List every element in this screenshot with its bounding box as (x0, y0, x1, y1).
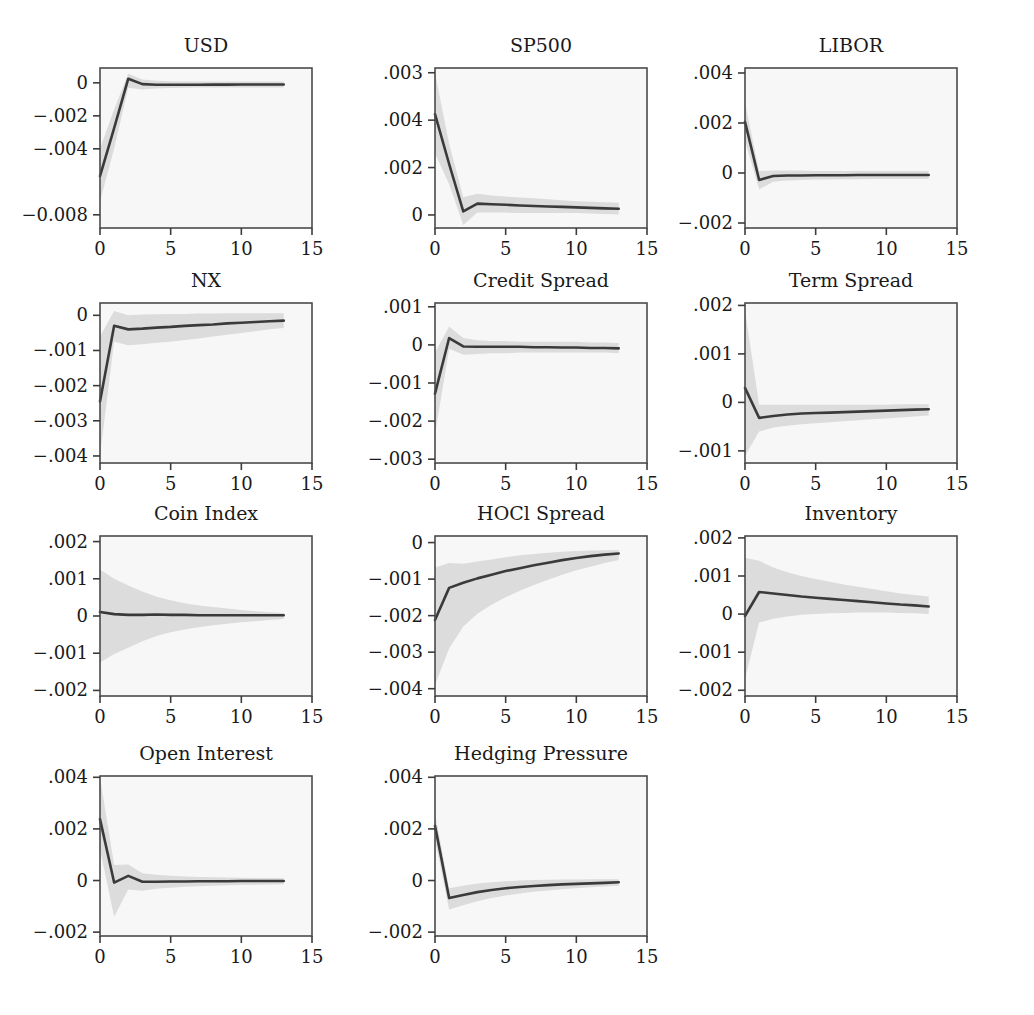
x-tick-label: 15 (636, 946, 659, 967)
panel-title: HOCl Spread (477, 502, 605, 524)
y-tick-label: .001 (48, 568, 88, 589)
panel-title: Term Spread (789, 269, 914, 291)
x-tick-label: 5 (500, 946, 511, 967)
y-tick-label: −.002 (33, 679, 88, 700)
x-tick-label: 10 (565, 946, 588, 967)
y-tick-label: −.003 (368, 448, 423, 469)
y-tick-label: .004 (383, 766, 423, 787)
plot-background (745, 303, 957, 463)
x-tick-label: 10 (875, 473, 898, 494)
y-tick-label: 0 (722, 391, 733, 412)
x-tick-label: 10 (230, 238, 253, 259)
x-tick-label: 10 (565, 238, 588, 259)
panel-hocl-spread: HOCl Spread0−.001−.002−.003−.004051015 (335, 498, 680, 733)
y-tick-label: 0 (77, 870, 88, 891)
panel-title: LIBOR (819, 34, 884, 56)
x-tick-label: 10 (875, 706, 898, 727)
y-tick-label: 0 (77, 72, 88, 93)
y-tick-label: −.001 (368, 372, 423, 393)
panel-credit-spread: Credit Spread.0010−.001−.002−.003051015 (335, 265, 680, 500)
y-tick-label: 0 (722, 162, 733, 183)
panel-inventory: Inventory.002.0010−.001−.002051015 (645, 498, 990, 733)
y-tick-label: .002 (383, 818, 423, 839)
y-tick-label: −.002 (33, 375, 88, 396)
y-tick-label: 0 (412, 870, 423, 891)
panel-title: Credit Spread (473, 269, 609, 291)
x-tick-label: 10 (875, 238, 898, 259)
y-tick-label: .002 (693, 294, 733, 315)
x-tick-label: 0 (739, 238, 750, 259)
y-tick-label: .002 (48, 531, 88, 552)
y-tick-label: −.004 (33, 138, 88, 159)
plot-background (435, 776, 647, 936)
x-tick-label: 15 (301, 706, 324, 727)
y-tick-label: −.002 (368, 605, 423, 626)
plot-background (745, 68, 957, 228)
panel-title: NX (191, 269, 222, 291)
y-tick-label: −.001 (678, 440, 733, 461)
impulse-response-panel-grid: USD0−.002−.004−0.008051015SP500.003.004.… (0, 0, 1034, 1015)
y-tick-label: .002 (693, 112, 733, 133)
y-tick-label: −.001 (368, 568, 423, 589)
x-tick-label: 0 (94, 946, 105, 967)
y-tick-label: −.001 (33, 339, 88, 360)
y-tick-label: 0 (412, 532, 423, 553)
y-tick-label: .004 (383, 109, 423, 130)
x-tick-label: 5 (810, 238, 821, 259)
x-tick-label: 0 (429, 238, 440, 259)
panel-hedging-pressure: Hedging Pressure.004.0020−.002051015 (335, 738, 680, 973)
x-tick-label: 0 (94, 706, 105, 727)
y-tick-label: .001 (693, 343, 733, 364)
panel-sp500: SP500.003.004.0020051015 (335, 30, 680, 265)
y-tick-label: 0 (77, 605, 88, 626)
plot-background (435, 303, 647, 463)
panel-title: Hedging Pressure (454, 742, 628, 764)
panel-term-spread: Term Spread.002.0010−.001051015 (645, 265, 990, 500)
x-tick-label: 5 (165, 238, 176, 259)
panel-title: SP500 (510, 34, 572, 56)
x-tick-label: 0 (429, 706, 440, 727)
x-tick-label: 5 (500, 238, 511, 259)
x-tick-label: 5 (165, 946, 176, 967)
x-tick-label: 0 (739, 706, 750, 727)
y-tick-label: 0 (77, 304, 88, 325)
x-tick-label: 0 (94, 473, 105, 494)
x-tick-label: 15 (946, 706, 969, 727)
y-tick-label: 0 (412, 204, 423, 225)
y-tick-label: .002 (48, 818, 88, 839)
x-tick-label: 15 (301, 473, 324, 494)
x-tick-label: 10 (230, 946, 253, 967)
x-tick-label: 5 (500, 473, 511, 494)
panel-nx: NX0−.001−.002−.003−.004051015 (0, 265, 345, 500)
y-tick-label: −.002 (368, 410, 423, 431)
plot-background (100, 68, 312, 228)
y-tick-label: .002 (383, 157, 423, 178)
panel-libor: LIBOR.004.0020−.002051015 (645, 30, 990, 265)
x-tick-label: 15 (946, 473, 969, 494)
y-tick-label: −.002 (368, 921, 423, 942)
x-tick-label: 0 (429, 946, 440, 967)
y-tick-label: −.004 (33, 445, 88, 466)
y-tick-label: .004 (48, 766, 88, 787)
x-tick-label: 10 (230, 473, 253, 494)
y-tick-label: .003 (383, 62, 423, 83)
y-tick-label: −.003 (33, 410, 88, 431)
panel-coin-index: Coin Index.002.0010−.001−.002051015 (0, 498, 345, 733)
y-tick-label: .002 (693, 527, 733, 548)
x-tick-label: 10 (230, 706, 253, 727)
y-tick-label: 0 (722, 603, 733, 624)
panel-open-interest: Open Interest.004.0020−.002051015 (0, 738, 345, 973)
panel-title: USD (184, 34, 228, 56)
x-tick-label: 0 (429, 473, 440, 494)
x-tick-label: 5 (165, 706, 176, 727)
x-tick-label: 10 (565, 473, 588, 494)
y-tick-label: .001 (383, 296, 423, 317)
y-tick-label: 0 (412, 334, 423, 355)
x-tick-label: 5 (500, 706, 511, 727)
y-tick-label: −.002 (678, 212, 733, 233)
y-tick-label: −.001 (678, 641, 733, 662)
y-tick-label: −.002 (678, 679, 733, 700)
x-tick-label: 5 (165, 473, 176, 494)
x-tick-label: 5 (810, 473, 821, 494)
x-tick-label: 0 (739, 473, 750, 494)
